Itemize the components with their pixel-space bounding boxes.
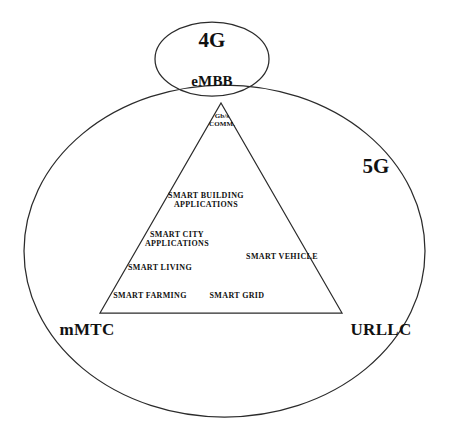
smart-building-applications-label: SMART BUILDING APPLICATIONS [160, 192, 252, 210]
diagram-shapes [0, 0, 452, 432]
urllc-label: URLLC [338, 320, 424, 339]
fiveg-label: 5G [348, 155, 404, 179]
smart-farming-label: SMART FARMING [108, 292, 192, 301]
smart-living-label: SMART LIVING [122, 264, 198, 273]
smart-city-applications-label: SMART CITY APPLICATIONS [134, 231, 220, 249]
smart-vehicle-label: SMART VEHICLE [244, 253, 320, 262]
fiveg-ellipse [24, 85, 425, 417]
fourg-label: 4G [176, 29, 248, 53]
embb-label: eMBB [176, 73, 248, 90]
smart-grid-label: SMART GRID [204, 292, 270, 301]
gbps-comm-label: Gb/s COMM. [194, 113, 250, 129]
mmtc-label: mMTC [42, 320, 132, 339]
venn-diagram-canvas: 4G eMBB 5G mMTC URLLC Gb/s COMM. SMART B… [0, 0, 452, 432]
